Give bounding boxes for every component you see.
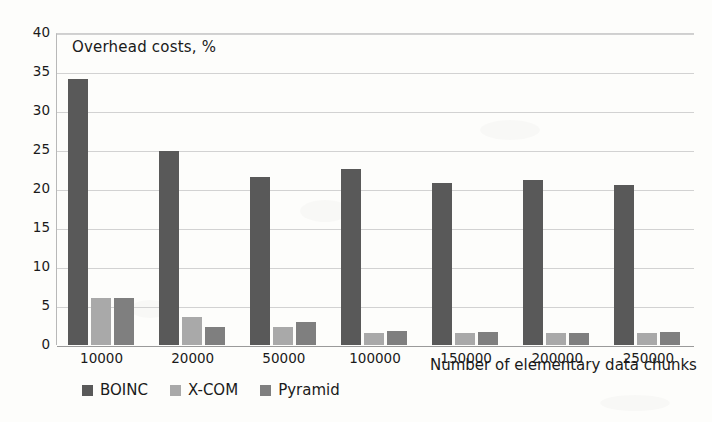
bar-group	[68, 34, 134, 345]
bar-group	[341, 34, 407, 345]
bar-boinc	[614, 185, 634, 345]
bar-boinc	[68, 79, 88, 345]
bar-boinc	[432, 183, 452, 345]
bar-pyramid	[660, 332, 680, 345]
legend-item[interactable]: X-COM	[170, 381, 238, 399]
legend-label: X-COM	[188, 381, 238, 399]
legend-label: Pyramid	[278, 381, 340, 399]
y-axis-tick-label: 20	[4, 182, 50, 196]
legend-label: BOINC	[100, 381, 148, 399]
y-axis-tick-label: 5	[4, 299, 50, 313]
y-axis-tick-label: 10	[4, 260, 50, 274]
bar-x-com	[455, 333, 475, 345]
bar-pyramid	[387, 331, 407, 345]
bar-pyramid	[205, 327, 225, 345]
bar-x-com	[182, 317, 202, 345]
bar-x-com	[91, 298, 111, 345]
legend-item[interactable]: Pyramid	[260, 381, 340, 399]
bar-group	[250, 34, 316, 345]
bar-group	[159, 34, 225, 345]
y-axis-tick-labels: 0510152025303540	[0, 0, 50, 422]
x-axis-tick-label: 10000	[80, 350, 123, 366]
legend-swatch-icon	[170, 385, 181, 396]
legend-swatch-icon	[260, 385, 271, 396]
x-axis-tick-label: 20000	[171, 350, 214, 366]
bar-x-com	[364, 333, 384, 345]
bar-boinc	[341, 169, 361, 345]
bar-pyramid	[114, 298, 134, 345]
plot-area	[56, 33, 694, 345]
bar-pyramid	[569, 333, 589, 345]
y-axis-tick-label: 25	[4, 143, 50, 157]
y-axis-tick-label: 40	[4, 26, 50, 40]
chart-title: Overhead costs, %	[72, 38, 216, 56]
bar-group	[432, 34, 498, 345]
y-axis-tick-label: 35	[4, 65, 50, 79]
bar-boinc	[159, 151, 179, 345]
bar-x-com	[546, 333, 566, 345]
legend-item[interactable]: BOINC	[82, 381, 148, 399]
scan-artifact	[600, 395, 670, 411]
bar-pyramid	[296, 322, 316, 345]
bar-boinc	[523, 180, 543, 345]
x-axis-tick-label: 100000	[349, 350, 401, 366]
bar-x-com	[273, 327, 293, 345]
chart-legend: BOINCX-COMPyramid	[82, 381, 340, 399]
overhead-costs-bar-chart: 0510152025303540 Overhead costs, % 10000…	[0, 0, 712, 422]
y-axis-tick-label: 30	[4, 104, 50, 118]
bar-pyramid	[478, 332, 498, 345]
legend-swatch-icon	[82, 385, 93, 396]
y-axis-tick-label: 15	[4, 221, 50, 235]
x-axis-title: Number of elementary data chunks	[430, 356, 697, 374]
y-axis-tick-label: 0	[4, 338, 50, 352]
bar-boinc	[250, 177, 270, 345]
x-axis-tick-label: 50000	[262, 350, 305, 366]
gridline	[57, 346, 694, 347]
bar-x-com	[637, 333, 657, 345]
bar-group	[614, 34, 680, 345]
bar-group	[523, 34, 589, 345]
